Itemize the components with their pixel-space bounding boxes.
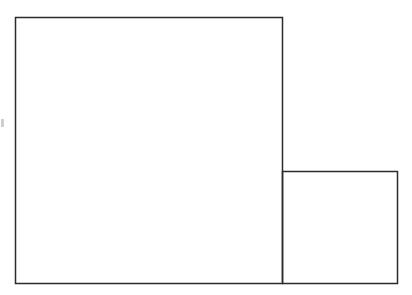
diagram-canvas [0,0,412,295]
large-square [16,18,283,284]
small-rectangle [283,172,398,284]
